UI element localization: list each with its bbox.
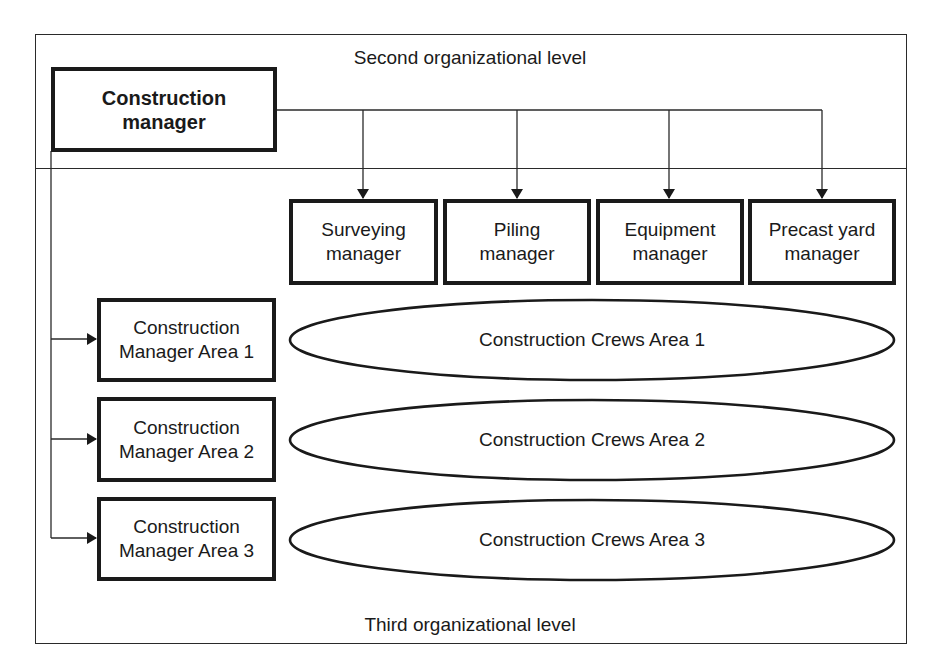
- area-manager-3-box: ConstructionManager Area 3: [97, 497, 276, 581]
- box-line2: Manager Area 1: [119, 340, 254, 364]
- box-line1: Construction: [119, 316, 254, 340]
- box-line2: manager: [625, 242, 716, 266]
- box-line2: manager: [480, 242, 555, 266]
- crews-area-3-label: Construction Crews Area 3: [290, 520, 894, 560]
- piling-manager-box: Pilingmanager: [443, 199, 591, 285]
- box-line1: Equipment: [625, 218, 716, 242]
- box-line2: manager: [321, 242, 406, 266]
- area-manager-1-box: ConstructionManager Area 1: [97, 298, 276, 382]
- box-line2: manager: [769, 242, 876, 266]
- crews-area-1-label: Construction Crews Area 1: [290, 320, 894, 360]
- construction-manager-line1: Construction: [102, 86, 226, 110]
- box-line2: Manager Area 3: [119, 539, 254, 563]
- crews-area-2-label: Construction Crews Area 2: [290, 420, 894, 460]
- box-line1: Construction: [119, 416, 254, 440]
- construction-manager-box: Construction manager: [51, 67, 277, 152]
- area-manager-2-box: ConstructionManager Area 2: [97, 397, 276, 482]
- box-line1: Surveying: [321, 218, 406, 242]
- equipment-manager-box: Equipmentmanager: [596, 199, 744, 285]
- surveying-manager-box: Surveyingmanager: [289, 199, 438, 285]
- box-line1: Piling: [480, 218, 555, 242]
- construction-manager-line2: manager: [102, 110, 226, 134]
- box-line2: Manager Area 2: [119, 440, 254, 464]
- precast-yard-manager-box: Precast yardmanager: [748, 199, 896, 285]
- box-line1: Precast yard: [769, 218, 876, 242]
- box-line1: Construction: [119, 515, 254, 539]
